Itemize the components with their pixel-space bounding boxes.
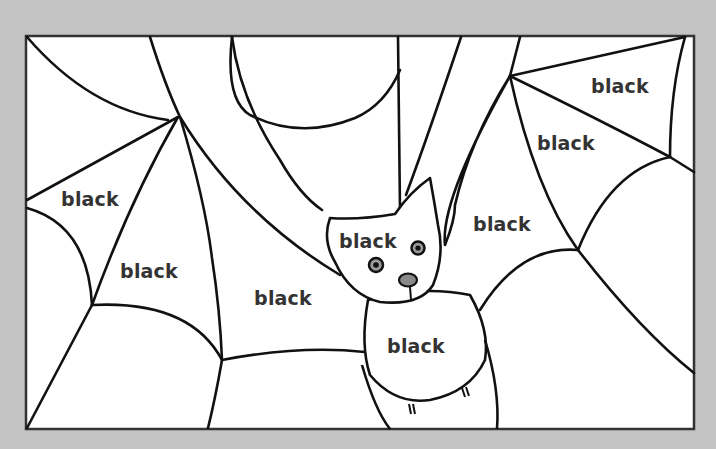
bat-nose xyxy=(399,274,417,287)
region-label-web-left-upper: black xyxy=(61,190,119,209)
region-label-web-right-top: black xyxy=(591,77,649,96)
coloring-page-canvas xyxy=(0,0,716,449)
bat-mouth-line xyxy=(410,287,411,300)
region-label-web-right-middle: black xyxy=(537,134,595,153)
region-label-web-center-right: black xyxy=(473,215,531,234)
region-label-bat-head: black xyxy=(339,232,397,251)
region-label-web-center-bottom: black xyxy=(254,289,312,308)
region-label-web-left-middle: black xyxy=(120,262,178,281)
region-label-bat-body: black xyxy=(387,337,445,356)
